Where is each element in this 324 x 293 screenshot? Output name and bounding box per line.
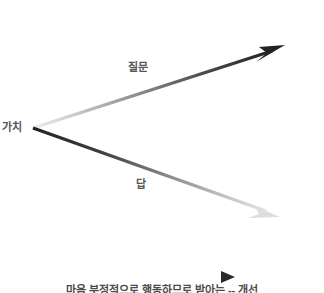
figure-caption: 마음 부정적으로 행동하므로 받아는 -- 개선 (0, 284, 324, 293)
series-label-answer: 답 (136, 178, 146, 191)
diagram-canvas (0, 0, 324, 293)
axis-label-value: 가치 (2, 121, 23, 134)
series-label-question: 질문 (128, 61, 149, 74)
caption-arrowhead-icon (221, 271, 235, 283)
value-question-answer-diagram: 가치 질문 답 마음 부정적으로 행동하므로 받아는 -- 개선 (0, 0, 324, 293)
question-arrow-shaft (33, 51, 272, 128)
answer-arrow-shaft (33, 128, 266, 211)
